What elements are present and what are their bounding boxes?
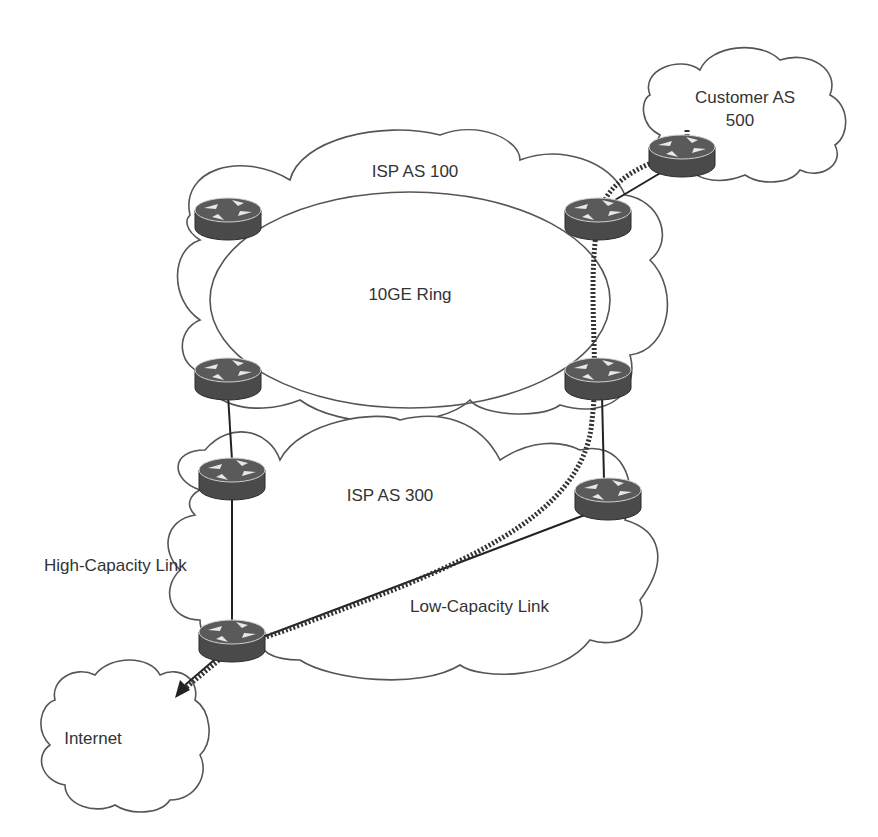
internet-label: Internet xyxy=(64,729,122,748)
router-isp100-top-right xyxy=(565,198,631,240)
link-r2-r8 xyxy=(615,172,662,200)
router-isp100-top-left xyxy=(195,198,261,240)
isp-as-300-label: ISP AS 300 xyxy=(347,486,434,505)
10ge-ring-label: 10GE Ring xyxy=(368,285,451,304)
router-isp100-bottom-right xyxy=(565,358,631,400)
customer-as-label: Customer AS xyxy=(695,88,795,107)
router-isp300-bottom-left xyxy=(199,620,265,662)
router-customer xyxy=(649,135,715,177)
router-isp100-bottom-left xyxy=(195,358,261,400)
router-isp300-right xyxy=(575,478,641,520)
network-diagram: ISP AS 100 10GE Ring ISP AS 300 Customer… xyxy=(0,0,878,837)
isp-as-100-label: ISP AS 100 xyxy=(372,162,459,181)
customer-as-number: 500 xyxy=(726,111,754,130)
router-isp300-top-left xyxy=(199,458,265,500)
low-capacity-link-label: Low-Capacity Link xyxy=(410,597,549,616)
high-capacity-link-label: High-Capacity Link xyxy=(44,556,187,575)
